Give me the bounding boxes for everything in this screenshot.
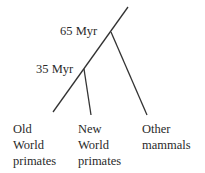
other-mammals-branch	[111, 32, 147, 115]
leaf-label-line: mammals	[142, 137, 191, 153]
leaf-label-new-world-primates: New World primates	[78, 121, 121, 169]
new-world-branch	[84, 69, 91, 115]
leaf-label-other-mammals: Other mammals	[142, 121, 191, 153]
leaf-label-old-world-primates: Old World primates	[13, 121, 56, 169]
node-label-65-myr: 65 Myr	[60, 23, 97, 39]
node-label-35-myr: 35 Myr	[36, 61, 73, 77]
leaf-label-line: New	[78, 121, 121, 137]
leaf-label-line: primates	[13, 153, 56, 169]
leaf-label-line: Other	[142, 121, 191, 137]
leaf-label-line: World	[78, 137, 121, 153]
leaf-label-line: Old	[13, 121, 56, 137]
phylogenetic-tree-diagram: 65 Myr 35 Myr Old World primates New Wor…	[0, 0, 205, 173]
leaf-label-line: primates	[78, 153, 121, 169]
leaf-label-line: World	[13, 137, 56, 153]
